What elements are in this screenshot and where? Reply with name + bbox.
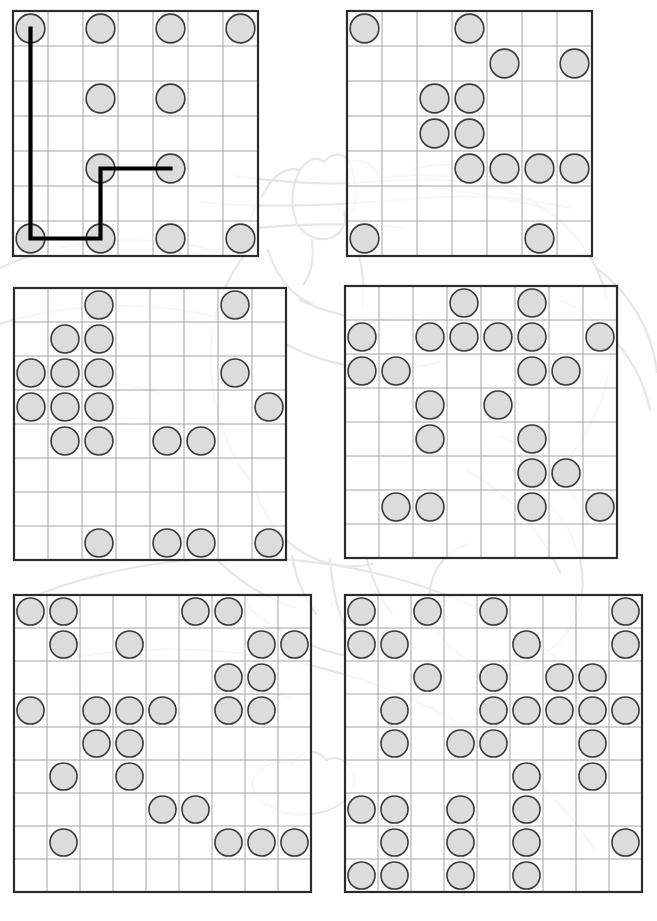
dot-circle[interactable] <box>480 598 507 625</box>
dot-circle[interactable] <box>149 796 176 823</box>
dot-circle[interactable] <box>480 730 507 757</box>
puzzle-grid-3[interactable] <box>8 282 292 566</box>
dot-circle[interactable] <box>221 291 249 319</box>
dot-circle[interactable] <box>221 359 249 387</box>
dot-circle[interactable] <box>350 224 379 253</box>
dot-circle[interactable] <box>50 763 77 790</box>
dot-circle[interactable] <box>414 598 441 625</box>
dot-circle[interactable] <box>455 84 484 113</box>
dot-circle[interactable] <box>586 493 614 521</box>
dot-circle[interactable] <box>447 730 474 757</box>
dot-circle[interactable] <box>248 697 275 724</box>
dot-circle[interactable] <box>480 664 507 691</box>
dot-circle[interactable] <box>381 697 408 724</box>
dot-circle[interactable] <box>156 14 185 43</box>
dot-circle[interactable] <box>350 14 379 43</box>
dot-circle[interactable] <box>85 529 113 557</box>
dot-circle[interactable] <box>382 493 410 521</box>
dot-circle[interactable] <box>513 631 540 658</box>
dot-circle[interactable] <box>85 427 113 455</box>
dot-circle[interactable] <box>226 224 255 253</box>
dot-circle[interactable] <box>416 425 444 453</box>
dot-circle[interactable] <box>518 357 546 385</box>
dot-circle[interactable] <box>579 730 606 757</box>
dot-circle[interactable] <box>484 391 512 419</box>
dot-circle[interactable] <box>447 796 474 823</box>
dot-circle[interactable] <box>215 697 242 724</box>
dot-circle[interactable] <box>17 393 45 421</box>
dot-circle[interactable] <box>248 631 275 658</box>
dot-circle[interactable] <box>50 829 77 856</box>
dot-circle[interactable] <box>455 14 484 43</box>
dot-circle[interactable] <box>248 829 275 856</box>
dot-circle[interactable] <box>381 829 408 856</box>
dot-circle[interactable] <box>86 14 115 43</box>
dot-circle[interactable] <box>612 631 639 658</box>
dot-circle[interactable] <box>455 154 484 183</box>
dot-circle[interactable] <box>50 631 77 658</box>
dot-circle[interactable] <box>525 224 554 253</box>
dot-circle[interactable] <box>255 529 283 557</box>
dot-circle[interactable] <box>579 763 606 790</box>
dot-circle[interactable] <box>149 697 176 724</box>
puzzle-grid-6[interactable] <box>339 589 648 898</box>
dot-circle[interactable] <box>612 829 639 856</box>
dot-circle[interactable] <box>348 862 375 889</box>
dot-circle[interactable] <box>518 289 546 317</box>
puzzle-grid-5[interactable] <box>8 589 317 898</box>
dot-circle[interactable] <box>513 697 540 724</box>
dot-circle[interactable] <box>546 664 573 691</box>
dot-circle[interactable] <box>612 598 639 625</box>
dot-circle[interactable] <box>85 393 113 421</box>
dot-circle[interactable] <box>348 357 376 385</box>
puzzle-grid-2[interactable] <box>341 5 598 262</box>
dot-circle[interactable] <box>490 154 519 183</box>
dot-circle[interactable] <box>546 697 573 724</box>
dot-circle[interactable] <box>348 598 375 625</box>
dot-circle[interactable] <box>518 323 546 351</box>
dot-circle[interactable] <box>182 598 209 625</box>
dot-circle[interactable] <box>586 323 614 351</box>
dot-circle[interactable] <box>480 697 507 724</box>
dot-circle[interactable] <box>450 323 478 351</box>
dot-circle[interactable] <box>513 763 540 790</box>
dot-circle[interactable] <box>382 357 410 385</box>
dot-circle[interactable] <box>153 529 181 557</box>
dot-circle[interactable] <box>455 119 484 148</box>
dot-circle[interactable] <box>525 154 554 183</box>
dot-circle[interactable] <box>450 289 478 317</box>
dot-circle[interactable] <box>560 154 589 183</box>
puzzle-grid-4[interactable] <box>339 280 623 564</box>
dot-circle[interactable] <box>51 393 79 421</box>
dot-circle[interactable] <box>187 427 215 455</box>
dot-circle[interactable] <box>416 493 444 521</box>
dot-circle[interactable] <box>153 427 181 455</box>
dot-circle[interactable] <box>560 49 589 78</box>
dot-circle[interactable] <box>83 730 110 757</box>
dot-circle[interactable] <box>447 829 474 856</box>
dot-circle[interactable] <box>414 664 441 691</box>
dot-circle[interactable] <box>552 357 580 385</box>
dot-circle[interactable] <box>416 323 444 351</box>
dot-circle[interactable] <box>518 493 546 521</box>
dot-circle[interactable] <box>51 325 79 353</box>
dot-circle[interactable] <box>226 14 255 43</box>
dot-circle[interactable] <box>85 291 113 319</box>
dot-circle[interactable] <box>116 763 143 790</box>
dot-circle[interactable] <box>156 84 185 113</box>
dot-circle[interactable] <box>215 829 242 856</box>
puzzle-grid-1[interactable] <box>7 5 264 262</box>
dot-circle[interactable] <box>156 224 185 253</box>
dot-circle[interactable] <box>215 664 242 691</box>
dot-circle[interactable] <box>248 664 275 691</box>
dot-circle[interactable] <box>85 359 113 387</box>
dot-circle[interactable] <box>381 796 408 823</box>
dot-circle[interactable] <box>281 631 308 658</box>
dot-circle[interactable] <box>381 631 408 658</box>
dot-circle[interactable] <box>17 359 45 387</box>
dot-circle[interactable] <box>348 796 375 823</box>
dot-circle[interactable] <box>612 697 639 724</box>
dot-circle[interactable] <box>85 325 113 353</box>
dot-circle[interactable] <box>513 862 540 889</box>
dot-circle[interactable] <box>518 425 546 453</box>
